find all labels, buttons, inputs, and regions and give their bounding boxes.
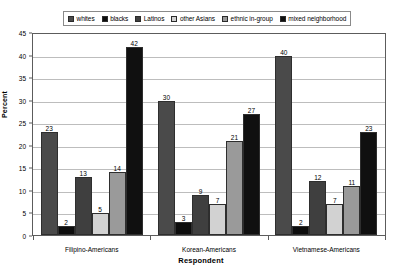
x-tick-label: Filipino-Americans — [65, 246, 118, 253]
y-tick-label: 5 — [22, 210, 26, 217]
bar-value-label: 30 — [163, 94, 170, 101]
legend-item-label: whites — [77, 15, 95, 22]
bar-group-vietnamese-americans: 4021271123 — [268, 34, 385, 235]
legend-item-mixed-neighborhood[interactable]: mixed neighborhood — [280, 15, 347, 22]
x-tick-mark — [268, 236, 269, 240]
y-tick-label: 35 — [19, 75, 26, 82]
legend-item-label: blacks — [110, 15, 128, 22]
legend-swatch-icon — [280, 16, 286, 22]
bar-slot: 11 — [343, 34, 360, 235]
x-tick-mark — [385, 236, 386, 240]
bar-slot: 12 — [309, 34, 326, 235]
bar-slot: 27 — [243, 34, 260, 235]
legend-item-blacks[interactable]: blacks — [102, 15, 129, 22]
bar-ethnic-in-group[interactable]: 11 — [343, 186, 360, 235]
x-tick-mark — [150, 236, 151, 240]
y-tick-label: 10 — [19, 187, 26, 194]
bar-whites[interactable]: 23 — [41, 132, 58, 235]
bar-slot: 23 — [41, 34, 58, 235]
legend-item-label: mixed neighborhood — [288, 15, 346, 22]
bar-latinos[interactable]: 12 — [309, 181, 326, 235]
legend-item-label: other Asians — [180, 15, 215, 22]
x-tick-label: Korean-Americans — [182, 246, 236, 253]
legend-swatch-icon — [102, 16, 108, 22]
bar-slot: 13 — [75, 34, 92, 235]
y-tick-label: 30 — [19, 97, 26, 104]
bar-other-asians[interactable]: 7 — [209, 204, 226, 235]
bar-slot: 5 — [92, 34, 109, 235]
x-axis: Filipino-AmericansKorean-AmericansVietna… — [32, 236, 386, 256]
y-axis-title: Percent — [1, 91, 8, 118]
y-tick-label: 20 — [19, 142, 26, 149]
bar-blacks[interactable]: 2 — [58, 226, 75, 235]
bar-other-asians[interactable]: 5 — [92, 213, 109, 235]
bar-value-label: 27 — [248, 107, 255, 114]
bar-ethnic-in-group[interactable]: 21 — [226, 141, 243, 235]
bar-slot: 2 — [58, 34, 75, 235]
bar-value-label: 12 — [314, 174, 321, 181]
bar-value-label: 2 — [299, 219, 303, 226]
bar-slot: 30 — [158, 34, 175, 235]
bar-slot: 42 — [126, 34, 143, 235]
bar-value-label: 9 — [199, 188, 203, 195]
bar-value-label: 7 — [333, 197, 337, 204]
bar-slot: 14 — [109, 34, 126, 235]
legend-item-other-asians[interactable]: other Asians — [171, 15, 215, 22]
bar-slot: 21 — [226, 34, 243, 235]
y-tick-label: 45 — [19, 30, 26, 37]
legend-swatch-icon — [222, 16, 228, 22]
bar-blacks[interactable]: 3 — [175, 222, 192, 235]
bar-slot: 7 — [209, 34, 226, 235]
bar-other-asians[interactable]: 7 — [326, 204, 343, 235]
x-tick-mark — [33, 236, 34, 240]
y-tick-label: 40 — [19, 52, 26, 59]
bar-latinos[interactable]: 13 — [75, 177, 92, 235]
bar-value-label: 40 — [280, 49, 287, 56]
bar-value-label: 3 — [182, 215, 186, 222]
legend-item-ethnic-in-group[interactable]: ethnic in-group — [222, 15, 273, 22]
legend-item-label: ethnic in-group — [231, 15, 273, 22]
bar-group-korean-americans: 303972127 — [150, 34, 267, 235]
legend-swatch-icon — [135, 16, 141, 22]
bar-group-filipino-americans: 2321351442 — [33, 34, 150, 235]
bar-slot: 9 — [192, 34, 209, 235]
bar-ethnic-in-group[interactable]: 14 — [109, 172, 126, 235]
bar-slot: 40 — [275, 34, 292, 235]
bar-value-label: 23 — [46, 125, 53, 132]
bar-slot: 23 — [360, 34, 377, 235]
bar-value-label: 5 — [98, 206, 102, 213]
bar-whites[interactable]: 40 — [275, 56, 292, 235]
bar-slot: 2 — [292, 34, 309, 235]
bar-value-label: 2 — [64, 219, 68, 226]
plot-area: 23213514423039721274021271123 — [32, 33, 386, 236]
bar-slot: 3 — [175, 34, 192, 235]
bar-value-label: 21 — [231, 134, 238, 141]
bar-mixed-neighborhood[interactable]: 42 — [126, 47, 143, 235]
bar-value-label: 23 — [365, 125, 372, 132]
bar-mixed-neighborhood[interactable]: 27 — [243, 114, 260, 235]
bar-value-label: 42 — [131, 40, 138, 47]
legend-item-label: Latinos — [144, 15, 165, 22]
bar-value-label: 7 — [216, 197, 220, 204]
bar-value-label: 14 — [114, 165, 121, 172]
x-axis-title: Respondent — [0, 256, 402, 265]
legend-item-latinos[interactable]: Latinos — [135, 15, 164, 22]
bar-mixed-neighborhood[interactable]: 23 — [360, 132, 377, 235]
legend-item-whites[interactable]: whites — [68, 15, 95, 22]
y-tick-label: 0 — [22, 233, 26, 240]
bars-layer: 23213514423039721274021271123 — [33, 34, 385, 235]
y-tick-label: 25 — [19, 120, 26, 127]
bar-blacks[interactable]: 2 — [292, 226, 309, 235]
chart-legend: whitesblacksLatinosother Asiansethnic in… — [63, 11, 351, 26]
y-axis: 051015202530354045 — [0, 33, 32, 236]
bar-slot: 7 — [326, 34, 343, 235]
x-tick-label: Vietnamese-Americans — [293, 246, 360, 253]
legend-swatch-icon — [68, 16, 74, 22]
y-tick-label: 15 — [19, 165, 26, 172]
legend-swatch-icon — [171, 16, 177, 22]
bar-value-label: 13 — [80, 170, 87, 177]
bar-latinos[interactable]: 9 — [192, 195, 209, 235]
bar-value-label: 11 — [348, 179, 355, 186]
bar-whites[interactable]: 30 — [158, 101, 175, 235]
